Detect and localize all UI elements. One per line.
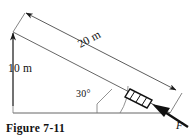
height-dimension-label: 10 m (8, 63, 32, 75)
figure-caption: Figure 7-11 (6, 122, 65, 134)
angle-leader-line (97, 89, 112, 104)
angle-label: 30° (76, 89, 91, 99)
dimension-extension-right (170, 93, 182, 113)
block-on-incline (125, 89, 152, 108)
force-label: F (176, 120, 183, 131)
incline-length-dimension-line (26, 13, 176, 90)
angle-arc (120, 86, 128, 113)
dimension-extension-left (13, 13, 25, 32)
figure-7-11-diagram: 10 m 20 m 30° F Figure 7-11 (0, 0, 191, 138)
